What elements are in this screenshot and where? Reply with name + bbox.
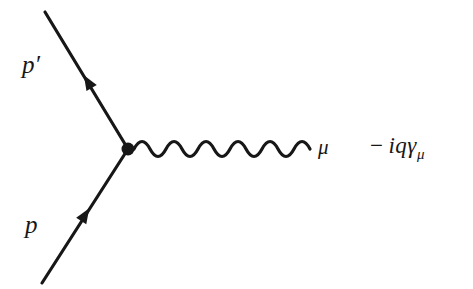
minus-sign: − — [370, 133, 383, 158]
outgoing-fermion-momentum-symbol: p — [22, 51, 35, 78]
feynman-diagram-figure: p′ p μ −iqγμ — [0, 0, 473, 289]
interaction-vertex-dot — [122, 143, 135, 156]
vertex-factor-expression: −iqγμ — [370, 134, 425, 162]
photon-lorentz-index-label: μ — [318, 137, 329, 158]
prime-mark: ′ — [35, 51, 40, 78]
photon-wave-line — [134, 142, 310, 157]
outgoing-fermion-momentum-label: p′ — [22, 52, 40, 77]
vertex-factor-subscript: μ — [417, 146, 425, 162]
incoming-fermion-momentum-label: p — [25, 212, 38, 237]
vertex-factor-body: iqγ — [388, 133, 416, 158]
